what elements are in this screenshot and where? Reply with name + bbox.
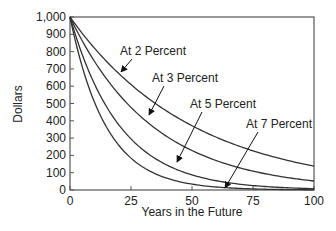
y-tick-label: 400 — [46, 114, 66, 128]
y-tick-label: 500 — [46, 97, 66, 111]
annotation-arrow — [225, 132, 258, 188]
annotation-label: At 3 Percent — [152, 71, 219, 85]
y-axis-label: Dollars — [11, 85, 25, 122]
x-tick-label: 25 — [124, 194, 138, 208]
annotation-label: At 2 Percent — [120, 44, 187, 58]
y-tick-label: 300 — [46, 131, 66, 145]
discount-chart: 01002003004005006007008009001,000 025507… — [0, 0, 336, 231]
annotation-label: At 5 Percent — [190, 97, 257, 111]
y-tick-label: 0 — [59, 183, 66, 197]
y-tick-label: 600 — [46, 79, 66, 93]
y-axis-ticks: 01002003004005006007008009001,000 — [36, 10, 74, 197]
y-tick-label: 700 — [46, 62, 66, 76]
y-tick-label: 900 — [46, 27, 66, 41]
x-tick-label: 0 — [67, 194, 74, 208]
curve-at-2-percent — [70, 17, 314, 166]
annotation-label: At 7 Percent — [246, 117, 313, 131]
x-axis-label: Years in the Future — [142, 205, 243, 219]
x-tick-label: 100 — [304, 194, 324, 208]
x-tick-label: 75 — [246, 194, 260, 208]
curve-annotations: At 2 PercentAt 3 PercentAt 5 PercentAt 7… — [120, 44, 313, 188]
annotation-arrow — [121, 59, 132, 72]
y-tick-label: 200 — [46, 148, 66, 162]
y-tick-label: 1,000 — [36, 10, 66, 24]
y-tick-label: 100 — [46, 166, 66, 180]
y-tick-label: 800 — [46, 45, 66, 59]
